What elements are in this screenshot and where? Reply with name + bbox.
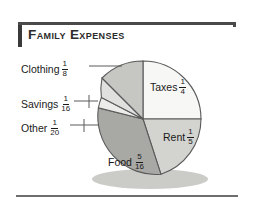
pie-label-food-fraction: 5 16 bbox=[134, 153, 145, 171]
pie-label-rent: Rent 1 5 bbox=[163, 128, 194, 146]
pie-label-savings-denominator: 16 bbox=[60, 105, 71, 114]
pie-label-food-name: Food bbox=[108, 156, 132, 168]
pie-label-taxes-name: Taxes bbox=[150, 81, 177, 93]
pie-label-savings: Savings 1 16 bbox=[21, 95, 71, 113]
pie-label-rent-name: Rent bbox=[163, 131, 185, 143]
pie-label-other: Other 1 20 bbox=[21, 119, 60, 137]
pie-label-clothing: Clothing 1 8 bbox=[21, 60, 68, 78]
pie-label-rent-fraction: 1 5 bbox=[187, 128, 193, 146]
pie-label-taxes: Taxes 1 4 bbox=[150, 78, 186, 96]
family-expenses-figure: Family Expenses Clothing 1 8 Savings bbox=[0, 0, 254, 211]
pie-label-taxes-fraction: 1 4 bbox=[179, 78, 185, 96]
pie-label-savings-fraction: 1 16 bbox=[60, 95, 71, 113]
pie-label-clothing-name: Clothing bbox=[21, 63, 60, 75]
pie-label-food-denominator: 16 bbox=[134, 163, 145, 172]
pie-label-other-fraction: 1 20 bbox=[49, 119, 60, 137]
pie-label-rent-denominator: 5 bbox=[187, 138, 193, 147]
pie-label-food: Food 5 16 bbox=[108, 153, 145, 171]
pie-label-taxes-denominator: 4 bbox=[179, 88, 185, 97]
pie-label-other-name: Other bbox=[21, 122, 47, 134]
pie-label-savings-name: Savings bbox=[21, 98, 58, 110]
pie-label-clothing-denominator: 8 bbox=[62, 70, 68, 79]
pie-label-clothing-fraction: 1 8 bbox=[62, 60, 68, 78]
pie-label-other-denominator: 20 bbox=[49, 129, 60, 138]
